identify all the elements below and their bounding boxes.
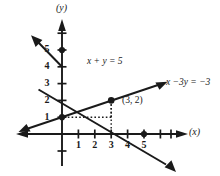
line1-segment [39,90,167,165]
point-marker-0-1 [59,114,65,120]
x-axis-label: (x) [189,127,200,137]
y-tick-label-3: 3 [41,78,53,88]
intersection-point-label: (3, 2) [122,96,143,106]
x-tick-label-4: 4 [122,140,134,150]
point-marker-intersection [108,97,115,104]
line1-arrow-lower-right [165,160,176,172]
x-tick-label-5: 5 [138,140,150,150]
y-tick-label-5: 5 [41,44,53,54]
x-tick-label-2: 2 [89,140,101,150]
x-tick-label-3: 3 [105,140,117,150]
y-tick-label-1: 1 [41,112,53,122]
graph-figure: (y) (x) 5 4 3 2 1 1 2 3 4 5 x + y = 5 x … [0,0,220,176]
y-axis-arrow-up [58,19,66,31]
y-tick-label-2: 2 [41,95,53,105]
line1-equation-label: x + y = 5 [87,57,123,67]
line2-equation-label: x −3y = −3 [166,78,210,88]
y-axis-label: (y) [56,3,67,13]
point-marker-0-5 [59,47,65,53]
y-axis [58,19,67,166]
x-axis [16,130,188,139]
point-marker-5-0 [141,131,147,137]
line-x-minus-3y-equals-minus-3 [19,82,168,132]
y-tick-label-4: 4 [41,61,53,71]
x-tick-label-1: 1 [72,140,84,150]
x-axis-arrow-right [176,130,188,138]
